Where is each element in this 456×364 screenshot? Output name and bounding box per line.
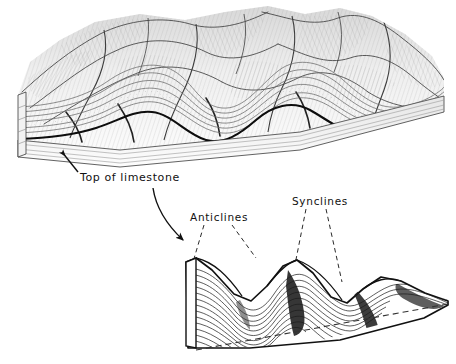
connector-arrow: [153, 188, 183, 240]
upper-block-left-face: [18, 92, 26, 157]
upper-terrain-block: [18, 6, 446, 167]
figure-canvas: Top of limestone Anticlines Synclines: [0, 0, 456, 364]
geology-figure: Top of limestone Anticlines Synclines: [0, 0, 456, 364]
anticlines-label: Anticlines: [190, 211, 248, 223]
synclines-label: Synclines: [292, 195, 348, 207]
fold-block-left-face: [186, 258, 196, 348]
top-of-limestone-label: Top of limestone: [79, 171, 180, 184]
lower-fold-block: [186, 258, 448, 354]
